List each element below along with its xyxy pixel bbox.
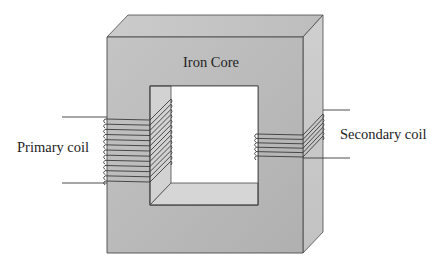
core-side-face (303, 15, 323, 253)
iron-core (107, 15, 323, 253)
iron-core-label: Iron Core (183, 55, 239, 70)
core-window (171, 86, 258, 183)
core-top-face (107, 15, 323, 37)
primary-coil-label: Primary coil (17, 140, 89, 155)
secondary-coil-label: Secondary coil (340, 127, 427, 142)
